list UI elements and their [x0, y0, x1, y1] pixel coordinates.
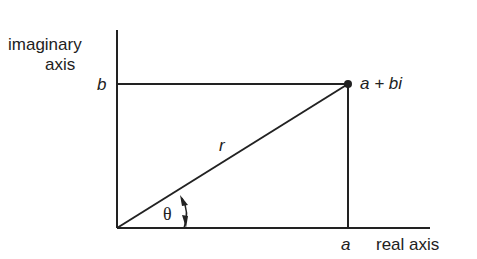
y-axis-label-line2: axis: [45, 56, 75, 73]
point-a-plus-bi: [344, 80, 352, 88]
radius-line-r: [117, 84, 348, 228]
a-label: a: [341, 236, 350, 253]
radius-label: r: [219, 137, 225, 154]
b-label: b: [97, 76, 106, 93]
point-label: a + bi: [360, 75, 402, 92]
y-axis-label: imaginary: [8, 36, 82, 53]
angle-label: θ: [163, 205, 172, 223]
x-axis-label: real axis: [376, 236, 439, 253]
angle-arrow-icon: [180, 195, 188, 228]
